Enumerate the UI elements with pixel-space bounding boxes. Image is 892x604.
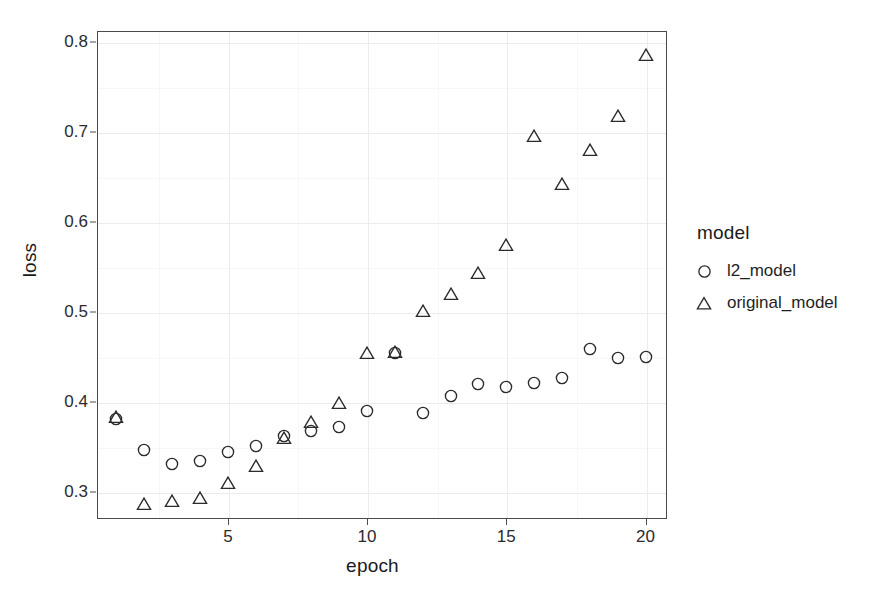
gridline-minor-horizontal — [98, 358, 666, 359]
triangle-marker-icon — [690, 289, 718, 317]
circle-marker-icon — [690, 257, 718, 285]
gridline-minor-horizontal — [98, 88, 666, 89]
gridline-minor-horizontal — [98, 178, 666, 179]
gridline-major-horizontal — [98, 313, 666, 314]
x-tick-label: 5 — [198, 527, 258, 547]
x-tick-label: 10 — [337, 527, 397, 547]
y-tick-mark — [90, 311, 96, 312]
gridline-minor-horizontal — [98, 448, 666, 449]
x-axis-title: epoch — [100, 555, 645, 577]
x-tick-mark — [506, 519, 507, 525]
y-tick-label: 0.7 — [40, 122, 88, 142]
y-axis-tick-labels: 0.30.40.50.60.70.8 — [38, 0, 88, 604]
legend-item-label: original_model — [727, 293, 838, 313]
legend: model l2_modeloriginal_model — [690, 222, 885, 320]
gridline-major-horizontal — [98, 493, 666, 494]
y-tick-mark — [90, 401, 96, 402]
y-tick-label: 0.6 — [40, 212, 88, 232]
gridline-major-horizontal — [98, 223, 666, 224]
y-tick-label: 0.5 — [40, 302, 88, 322]
x-tick-mark — [367, 519, 368, 525]
y-tick-label: 0.3 — [40, 482, 88, 502]
scatter-plot-figure: loss 0.30.40.50.60.70.8 5101520 epoch mo… — [0, 0, 892, 604]
x-tick-mark — [228, 519, 229, 525]
y-tick-mark — [90, 41, 96, 42]
gridline-minor-vertical — [577, 32, 578, 518]
gridline-minor-vertical — [438, 32, 439, 518]
gridline-minor-vertical — [298, 32, 299, 518]
y-tick-mark — [90, 221, 96, 222]
legend-item-label: l2_model — [727, 261, 796, 281]
x-tick-label: 20 — [616, 527, 676, 547]
gridline-major-vertical — [229, 32, 230, 518]
y-tick-label: 0.8 — [40, 32, 88, 52]
gridline-major-vertical — [368, 32, 369, 518]
x-tick-mark — [646, 519, 647, 525]
plot-panel — [97, 31, 667, 519]
y-tick-mark — [90, 491, 96, 492]
gridline-major-horizontal — [98, 403, 666, 404]
legend-item-original_model: original_model — [690, 288, 885, 318]
gridline-minor-vertical — [159, 32, 160, 518]
y-tick-label: 0.4 — [40, 392, 88, 412]
y-tick-mark — [90, 131, 96, 132]
x-axis-title-text: epoch — [346, 555, 399, 576]
gridline-minor-horizontal — [98, 268, 666, 269]
gridline-major-vertical — [507, 32, 508, 518]
legend-item-l2_model: l2_model — [690, 256, 885, 286]
gridline-major-horizontal — [98, 43, 666, 44]
gridline-major-vertical — [647, 32, 648, 518]
gridline-major-horizontal — [98, 133, 666, 134]
x-tick-label: 15 — [476, 527, 536, 547]
legend-title: model — [697, 222, 885, 244]
legend-entries: l2_modeloriginal_model — [690, 256, 885, 318]
